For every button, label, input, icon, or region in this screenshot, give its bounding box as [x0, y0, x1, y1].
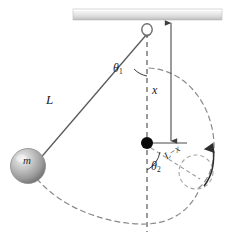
ceiling-beam	[73, 9, 222, 20]
peg-dot	[141, 137, 153, 149]
theta2-subscript: 2	[157, 165, 161, 174]
theta1-arc	[134, 69, 147, 76]
theta1-subscript: 1	[119, 67, 123, 76]
label-theta1: θ1	[113, 62, 123, 75]
diagram-canvas	[0, 0, 237, 238]
label-peg-distance: x	[152, 84, 157, 96]
pivot-ring	[142, 24, 152, 37]
pendulum-string	[38, 34, 147, 161]
label-string-length: L	[46, 93, 53, 106]
lower-dashed-trajectory	[37, 179, 199, 224]
label-theta2: θ2	[151, 160, 161, 173]
loop-dashed-circle	[179, 155, 213, 189]
pendulum-diagram: L x θ1 θ2 L−x m	[0, 0, 237, 238]
label-mass: m	[23, 155, 31, 166]
